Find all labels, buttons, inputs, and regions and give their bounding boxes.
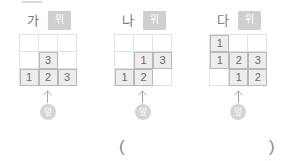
panel-letter: 가	[27, 14, 39, 27]
up-arrow-icon	[233, 90, 244, 103]
top-direction-badge: 위	[48, 11, 71, 30]
grid-cell-filled: 1	[115, 69, 134, 86]
grid-cell-filled: 1	[20, 69, 39, 86]
front-direction-marker: 앞	[230, 90, 246, 120]
figure-panel-나: 나위1312앞	[95, 0, 190, 140]
grid-cell-filled: 1	[229, 69, 248, 86]
front-direction-badge: 앞	[40, 104, 56, 120]
figure-panel-가: 가위3123앞	[0, 0, 95, 140]
up-arrow-icon	[137, 90, 148, 103]
open-paren: (	[119, 132, 125, 161]
front-direction-badge: 앞	[230, 104, 246, 120]
cube-grid: 3123	[19, 34, 77, 86]
grid-cell-filled: 1	[210, 35, 229, 52]
cube-grid: 1312	[114, 34, 172, 86]
grid-cell-filled: 3	[248, 52, 267, 69]
panel-header: 다위	[191, 8, 286, 32]
grid-cell-filled: 1	[210, 52, 229, 69]
front-direction-badge: 앞	[135, 104, 151, 120]
cube-grid: 112312	[209, 34, 267, 86]
grid-cell-filled: 3	[153, 52, 172, 69]
top-direction-badge: 위	[238, 11, 261, 30]
panel-header: 가위	[0, 8, 95, 32]
grid-cell-empty	[153, 35, 172, 52]
front-direction-marker: 앞	[135, 90, 151, 120]
grid-cell-empty	[58, 52, 77, 69]
grid-cell-empty	[248, 35, 267, 52]
grid-cell-empty	[20, 52, 39, 69]
grid-cell-filled: 2	[229, 52, 248, 69]
up-arrow-icon	[42, 90, 53, 103]
grid-cell-empty	[134, 35, 153, 52]
answer-parentheses: ( )	[0, 132, 286, 161]
grid-cell-filled: 3	[39, 52, 58, 69]
grid-cell-empty	[153, 69, 172, 86]
close-paren: )	[269, 132, 275, 161]
grid-cell-filled: 1	[134, 52, 153, 69]
grid-cell-filled: 2	[248, 69, 267, 86]
grid-cell-empty	[58, 35, 77, 52]
top-direction-badge: 위	[143, 11, 166, 30]
grid-cell-empty	[115, 52, 134, 69]
panel-letter: 나	[122, 14, 134, 27]
grid-cell-empty	[20, 35, 39, 52]
grid-cell-filled: 3	[58, 69, 77, 86]
front-direction-marker: 앞	[40, 90, 56, 120]
grid-cell-filled: 2	[134, 69, 153, 86]
figure-panels: 가위3123앞나위1312앞다위112312앞	[0, 0, 286, 140]
grid-cell-filled: 2	[39, 69, 58, 86]
grid-cell-empty	[39, 35, 58, 52]
panel-letter: 다	[217, 14, 229, 27]
grid-cell-empty	[229, 35, 248, 52]
grid-cell-empty	[210, 69, 229, 86]
grid-cell-empty	[115, 35, 134, 52]
figure-panel-다: 다위112312앞	[191, 0, 286, 140]
panel-header: 나위	[95, 8, 190, 32]
